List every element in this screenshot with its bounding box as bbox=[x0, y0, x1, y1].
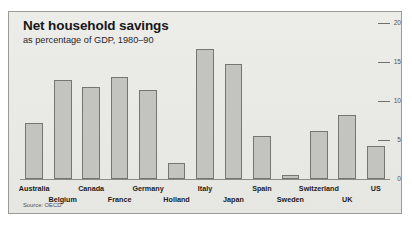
bar-rect bbox=[310, 131, 328, 179]
bar-france[interactable] bbox=[111, 77, 129, 179]
bar-rect bbox=[338, 115, 356, 179]
bar-rect bbox=[25, 123, 43, 179]
bar-germany[interactable] bbox=[139, 90, 157, 179]
bar-italy[interactable] bbox=[196, 49, 214, 179]
bar-rect bbox=[253, 136, 271, 179]
bar-uk[interactable] bbox=[338, 115, 356, 179]
bar-switzerland[interactable] bbox=[310, 131, 328, 179]
bar-canada[interactable] bbox=[82, 87, 100, 179]
source-note: Source: OECD bbox=[23, 202, 61, 208]
bar-rect bbox=[168, 163, 186, 179]
bar-japan[interactable] bbox=[225, 64, 243, 179]
bar-us[interactable] bbox=[367, 146, 385, 179]
bar-belgium[interactable] bbox=[54, 80, 72, 179]
bar-rect bbox=[367, 146, 385, 179]
bar-holland[interactable] bbox=[168, 163, 186, 179]
bar-series bbox=[20, 12, 390, 213]
bar-rect bbox=[196, 49, 214, 179]
y-axis-tick-label: 0 bbox=[392, 175, 401, 182]
y-axis-tick-label: 5 bbox=[392, 136, 401, 143]
bar-australia[interactable] bbox=[25, 123, 43, 179]
bar-rect bbox=[225, 64, 243, 179]
bar-rect bbox=[282, 175, 300, 179]
bar-rect bbox=[82, 87, 100, 179]
bar-rect bbox=[54, 80, 72, 179]
y-axis-tick-label: 15 bbox=[392, 58, 401, 65]
bar-spain[interactable] bbox=[253, 136, 271, 179]
bar-sweden[interactable] bbox=[282, 175, 300, 179]
bar-rect bbox=[139, 90, 157, 179]
bar-rect bbox=[111, 77, 129, 179]
chart-plot-area: Net household savings as percentage of G… bbox=[9, 12, 401, 213]
chart-frame: Net household savings as percentage of G… bbox=[8, 11, 402, 214]
y-axis-tick-label: 10 bbox=[392, 97, 401, 104]
y-axis-tick-label: 20 bbox=[392, 19, 401, 26]
